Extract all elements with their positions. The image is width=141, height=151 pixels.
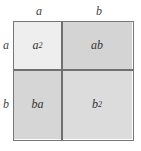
- row-label-b: b: [1, 98, 11, 110]
- cell-b-squared: b2: [62, 70, 132, 139]
- cell-a-squared-base: a: [33, 38, 39, 53]
- square-grid: a2 ab ba b2: [13, 21, 134, 141]
- row-label-a: a: [1, 39, 11, 51]
- column-label-b: b: [93, 5, 105, 17]
- cell-ba: ba: [14, 70, 61, 139]
- cell-ab-text: ab: [91, 38, 103, 53]
- horizontal-divider: [14, 69, 133, 71]
- cell-ba-text: ba: [32, 97, 44, 112]
- cell-ab: ab: [62, 22, 132, 69]
- column-label-a: a: [33, 5, 45, 17]
- cell-a-squared: a2: [14, 22, 61, 69]
- vertical-divider: [61, 22, 63, 140]
